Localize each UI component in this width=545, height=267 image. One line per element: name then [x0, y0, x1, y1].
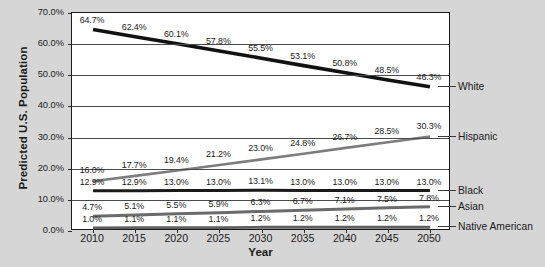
data-label: 12.9% [80, 177, 105, 187]
legend-label-native-american: Native American [458, 221, 533, 232]
data-label: 1.1% [124, 214, 144, 224]
y-axis-tick [68, 106, 72, 107]
data-label: 1.2% [251, 213, 271, 223]
y-axis-tick [68, 169, 72, 170]
data-label: 19.4% [164, 155, 189, 165]
data-label: 1.1% [208, 214, 228, 224]
y-axis-tick [68, 75, 72, 76]
data-label: 13.0% [290, 177, 315, 187]
series-line-white [93, 30, 430, 87]
data-label: 50.8% [332, 58, 357, 68]
y-axis-tick-label: 20.0% [4, 163, 64, 173]
x-axis-tick-label: 2050 [402, 232, 456, 244]
data-label: 13.0% [417, 177, 442, 187]
data-label: 46.3% [417, 72, 442, 82]
data-label: 13.0% [164, 177, 189, 187]
data-label: 28.5% [374, 126, 399, 136]
gridline [72, 106, 449, 107]
data-label: 55.5% [248, 43, 273, 53]
legend-leader-line [438, 86, 456, 87]
y-axis-tick [68, 200, 72, 201]
legend-leader-line [438, 190, 456, 191]
y-axis-tick [68, 44, 72, 45]
data-label: 6.3% [251, 197, 271, 207]
data-label: 1.0% [82, 214, 102, 224]
data-label: 24.8% [290, 138, 315, 148]
population-projection-chart: Predicted U.S. Population Year 0.0%10.0%… [0, 0, 545, 267]
legend-label-asian: Asian [458, 200, 484, 211]
y-axis-tick-label: 50.0% [4, 69, 64, 79]
data-label: 17.7% [122, 160, 147, 170]
legend-label-white: White [458, 80, 484, 91]
y-axis-tick-label: 10.0% [4, 194, 64, 204]
data-label: 1.1% [166, 214, 186, 224]
data-label: 57.8% [206, 36, 231, 46]
y-axis-tick-label: 60.0% [4, 38, 64, 48]
data-label: 4.7% [82, 202, 102, 212]
data-label: 48.5% [374, 65, 399, 75]
y-axis-tick [68, 13, 72, 14]
data-label: 62.4% [122, 22, 147, 32]
data-label: 1.2% [419, 213, 439, 223]
y-axis-tick-label: 70.0% [4, 7, 64, 17]
data-label: 16.0% [80, 165, 105, 175]
data-label: 7.8% [419, 193, 439, 203]
x-axis-title: Year [71, 246, 450, 258]
legend-leader-line [438, 136, 456, 137]
data-label: 7.1% [335, 195, 355, 205]
data-label: 13.1% [248, 176, 273, 186]
data-label: 1.2% [335, 213, 355, 223]
gridline [72, 75, 449, 76]
series-line-black [93, 190, 430, 191]
data-label: 13.0% [206, 177, 231, 187]
data-label: 1.2% [377, 213, 397, 223]
data-label: 30.3% [417, 121, 442, 131]
data-label: 12.9% [122, 177, 147, 187]
legend-leader-line [438, 206, 456, 207]
y-axis-tick [68, 138, 72, 139]
y-axis-tick-label: 0.0% [4, 225, 64, 235]
data-label: 1.2% [293, 213, 313, 223]
data-label: 21.2% [206, 149, 231, 159]
legend-label-black: Black [458, 184, 483, 195]
data-label: 23.0% [248, 143, 273, 153]
data-label: 26.7% [332, 132, 357, 142]
data-label: 5.1% [124, 201, 144, 211]
y-axis-tick-label: 30.0% [4, 132, 64, 142]
data-label: 60.1% [164, 29, 189, 39]
data-label: 64.7% [80, 15, 105, 25]
data-label: 13.0% [332, 177, 357, 187]
data-label: 6.7% [293, 196, 313, 206]
data-label: 5.5% [166, 200, 186, 210]
data-label: 53.1% [290, 51, 315, 61]
data-label: 5.9% [208, 199, 228, 209]
series-line-native-american [93, 227, 430, 228]
y-axis-tick-label: 40.0% [4, 100, 64, 110]
data-label: 13.0% [374, 177, 399, 187]
legend-label-hispanic: Hispanic [458, 130, 498, 141]
data-label: 7.5% [377, 194, 397, 204]
legend-leader-line [438, 226, 456, 227]
gridline [72, 138, 449, 139]
